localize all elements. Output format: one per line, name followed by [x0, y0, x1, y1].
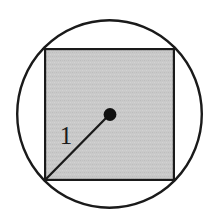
center-point-dot	[104, 108, 117, 121]
figure-canvas: 1	[0, 0, 213, 220]
radius-length-label: 1	[60, 122, 73, 149]
circle-square-diagram: 1	[0, 0, 213, 220]
